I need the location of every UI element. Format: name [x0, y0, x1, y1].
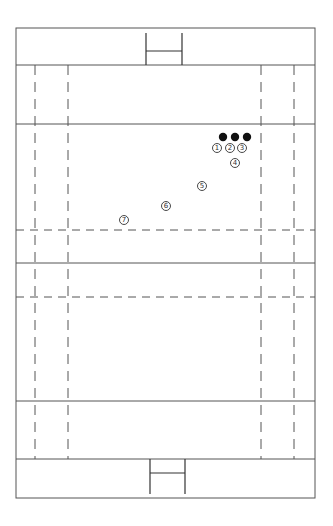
attacker-player-6: 6: [162, 202, 171, 211]
attacker-player-4: 4: [231, 159, 240, 168]
player-number: 3: [240, 144, 244, 152]
rugby-pitch-diagram: 1234567: [0, 0, 333, 526]
player-number: 7: [122, 216, 126, 224]
goal-posts-top: [146, 33, 182, 65]
attacker-player-1: 1: [213, 144, 222, 153]
attacker-player-3: 3: [238, 144, 247, 153]
goal-posts-bottom: [150, 459, 185, 494]
player-number: 1: [215, 144, 219, 152]
player-number: 6: [164, 202, 169, 210]
attacker-markers: 1234567: [120, 144, 247, 225]
player-number: 4: [233, 159, 238, 167]
defender-dot: [231, 133, 239, 141]
attacker-player-5: 5: [198, 182, 207, 191]
defender-dot: [219, 133, 227, 141]
player-number: 2: [228, 144, 232, 152]
player-number: 5: [200, 182, 204, 190]
defender-markers: [219, 133, 251, 141]
attacker-player-2: 2: [226, 144, 235, 153]
defender-dot: [243, 133, 251, 141]
field-lines: [16, 28, 315, 498]
attacker-player-7: 7: [120, 216, 129, 225]
